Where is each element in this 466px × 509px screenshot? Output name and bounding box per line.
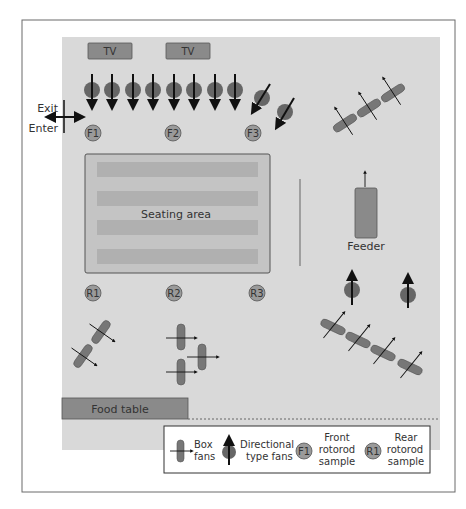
legend-directional-line1: Directional	[240, 439, 294, 450]
enter-label: Enter	[28, 122, 58, 135]
front-sampler-f2: F2	[165, 125, 181, 141]
legend-front-sampler-icon: F1	[296, 443, 312, 459]
rear-sampler-r3: R3	[249, 285, 265, 301]
seating-row	[97, 162, 258, 177]
seating-row	[97, 191, 258, 206]
svg-text:F1: F1	[87, 128, 99, 139]
legend-rear-sampler-icon: R1	[365, 443, 381, 459]
seating-row	[97, 220, 258, 235]
legend-front-line3: sample	[319, 456, 355, 467]
svg-text:F1: F1	[298, 446, 310, 457]
seating-area: Seating area	[85, 154, 270, 273]
feeder-label: Feeder	[347, 240, 385, 253]
legend-directional-line2: type fans	[246, 451, 293, 462]
tv-left: TV	[88, 43, 132, 59]
front-sampler-f3: F3	[245, 125, 261, 141]
tv-right: TV	[166, 43, 210, 59]
exit-label: Exit	[37, 102, 59, 115]
rear-sampler-r1: R1	[85, 285, 101, 301]
legend-front-line1: Front	[324, 432, 349, 443]
legend-rear-line2: rotorod	[387, 444, 423, 455]
tv-right-label: TV	[181, 46, 195, 57]
svg-text:R1: R1	[366, 446, 379, 457]
legend-box-fans-line1: Box	[194, 439, 213, 450]
svg-text:F2: F2	[167, 128, 179, 139]
seating-area-label: Seating area	[141, 208, 211, 221]
svg-text:R1: R1	[86, 288, 99, 299]
legend-front-line2: rotorod	[319, 444, 355, 455]
legend-rear-line1: Rear	[395, 432, 419, 443]
svg-text:R3: R3	[250, 288, 263, 299]
tv-left-label: TV	[103, 46, 117, 57]
room-layout-diagram: TV TV Exit Enter F1 F2 F3	[0, 0, 466, 509]
front-sampler-f1: F1	[85, 125, 101, 141]
svg-text:R2: R2	[167, 288, 180, 299]
legend-rear-line3: sample	[388, 456, 424, 467]
seating-row	[97, 249, 258, 264]
legend: Box fans Directional type fans F1 Front …	[164, 426, 430, 473]
food-table: Food table	[62, 398, 188, 419]
food-table-label: Food table	[91, 403, 149, 416]
svg-text:F3: F3	[247, 128, 259, 139]
rear-sampler-r2: R2	[166, 285, 182, 301]
legend-box-fans-line2: fans	[194, 451, 215, 462]
